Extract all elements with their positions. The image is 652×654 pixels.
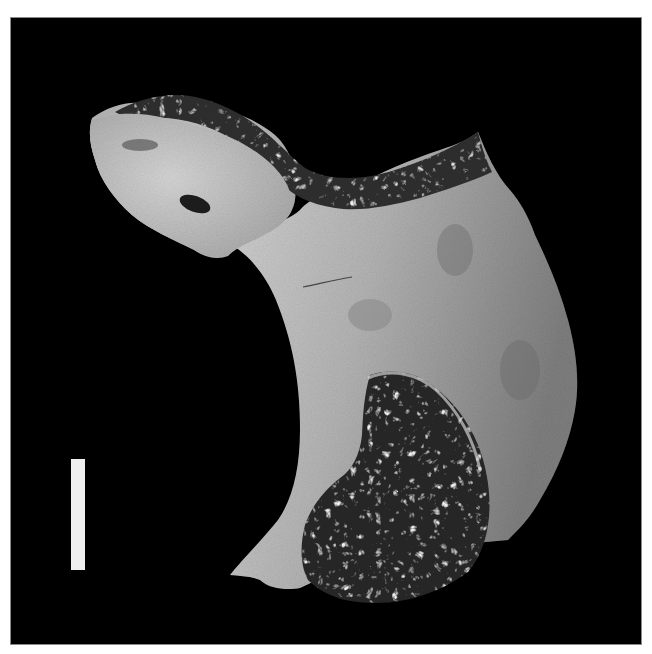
scale-bar [71,459,85,570]
bone-specimen-photo [0,0,652,654]
shaft-patch-2 [437,224,473,276]
shaft-patch-3 [500,340,540,400]
shaft-patch [348,299,392,331]
head-pits [122,139,158,151]
